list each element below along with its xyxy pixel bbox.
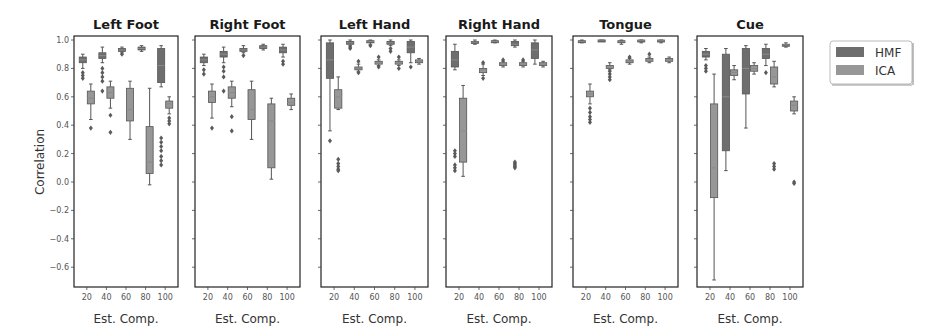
x-tick-label: 80 xyxy=(390,293,400,302)
y-tick-label: 0.0 xyxy=(56,178,69,187)
y-axis-label: Correlation xyxy=(33,129,47,195)
x-tick-label: 20 xyxy=(329,293,339,302)
panel-title: Left Foot xyxy=(93,17,159,32)
x-tick-label: 40 xyxy=(101,293,111,302)
x-tick-label: 100 xyxy=(657,293,672,302)
x-tick-label: 60 xyxy=(369,293,379,302)
x-tick-label: 40 xyxy=(601,293,611,302)
iqr-box xyxy=(335,90,342,108)
iqr-box xyxy=(87,91,94,104)
axes-frame xyxy=(573,36,678,287)
x-tick-label: 60 xyxy=(745,293,755,302)
iqr-box xyxy=(326,43,333,78)
x-tick-label: 80 xyxy=(640,293,650,302)
panel-tongue: Tongue20406080100Est. Comp. xyxy=(570,17,678,326)
iqr-box xyxy=(722,54,729,151)
x-axis-label: Est. Comp. xyxy=(717,312,782,326)
y-tick-label: 0.2 xyxy=(56,150,69,159)
boxplot-figure: Correlation Left Foot1.00.80.60.40.20.0−… xyxy=(0,0,943,335)
x-tick-label: 80 xyxy=(765,293,775,302)
panel-right-hand: Right Hand20406080100Est. Comp. xyxy=(443,17,552,326)
panel-title: Cue xyxy=(736,17,764,32)
legend-swatch xyxy=(836,65,864,75)
iqr-box xyxy=(742,49,749,94)
x-axis-label: Est. Comp. xyxy=(593,312,658,326)
iqr-box xyxy=(791,101,798,111)
box-hmf-20 xyxy=(578,40,585,43)
x-axis-label: Est. Comp. xyxy=(93,312,158,326)
x-axis-label: Est. Comp. xyxy=(342,312,407,326)
y-tick-label: 0.6 xyxy=(56,93,69,102)
iqr-box xyxy=(460,98,467,162)
y-tick-label: −0.2 xyxy=(50,206,69,215)
x-tick-label: 40 xyxy=(474,293,484,302)
panel-title: Left Hand xyxy=(339,17,411,32)
panel-title: Tongue xyxy=(599,17,652,32)
x-tick-label: 100 xyxy=(531,293,546,302)
x-tick-label: 20 xyxy=(581,293,591,302)
y-tick-label: 0.4 xyxy=(56,121,69,130)
box-hmf-60 xyxy=(491,40,498,43)
x-tick-label: 100 xyxy=(407,293,422,302)
axes-frame xyxy=(195,36,300,287)
x-tick-label: 80 xyxy=(514,293,524,302)
x-tick-label: 100 xyxy=(782,293,797,302)
y-tick-label: 1.0 xyxy=(56,36,69,45)
y-tick-label: −0.6 xyxy=(50,263,69,272)
iqr-box xyxy=(268,104,275,168)
x-axis-label: Est. Comp. xyxy=(215,312,280,326)
iqr-box xyxy=(146,127,153,174)
iqr-box xyxy=(771,67,778,84)
x-tick-label: 60 xyxy=(121,293,131,302)
panel-title: Right Hand xyxy=(458,17,540,32)
x-tick-label: 60 xyxy=(620,293,630,302)
x-tick-label: 20 xyxy=(82,293,92,302)
iqr-box xyxy=(288,98,295,105)
x-tick-label: 80 xyxy=(262,293,272,302)
y-tick-label: −0.4 xyxy=(50,235,69,244)
x-tick-label: 80 xyxy=(141,293,151,302)
legend-label: ICA xyxy=(875,64,896,78)
legend-swatch xyxy=(836,47,864,57)
panel-left-hand: Left Hand20406080100Est. Comp. xyxy=(318,17,428,326)
iqr-box xyxy=(511,41,518,45)
legend-label: HMF xyxy=(875,46,901,60)
iqr-box xyxy=(248,90,255,120)
box-ica-80 xyxy=(268,98,275,179)
panel-right-foot: Right Foot20406080100Est. Comp. xyxy=(192,17,300,326)
iqr-box xyxy=(480,68,487,72)
y-tick-label: 0.8 xyxy=(56,64,69,73)
box-hmf-40 xyxy=(598,40,605,42)
iqr-box xyxy=(762,49,769,59)
x-tick-label: 20 xyxy=(705,293,715,302)
iqr-box xyxy=(711,104,718,198)
panel-title: Right Foot xyxy=(209,17,285,32)
iqr-box xyxy=(127,88,134,121)
x-tick-label: 60 xyxy=(494,293,504,302)
x-tick-label: 100 xyxy=(158,293,173,302)
x-axis-label: Est. Comp. xyxy=(466,312,531,326)
iqr-box xyxy=(531,43,538,59)
x-tick-label: 40 xyxy=(725,293,735,302)
panel-left-foot: Left Foot1.00.80.60.40.20.0−0.2−0.4−0.62… xyxy=(50,17,178,326)
iqr-box xyxy=(166,101,173,108)
x-tick-label: 100 xyxy=(279,293,294,302)
x-tick-label: 40 xyxy=(223,293,233,302)
x-tick-label: 60 xyxy=(242,293,252,302)
x-tick-label: 20 xyxy=(203,293,213,302)
panels-group: Left Foot1.00.80.60.40.20.0−0.2−0.4−0.62… xyxy=(50,17,803,326)
axes-frame xyxy=(321,36,428,287)
iqr-box xyxy=(451,51,458,67)
x-tick-label: 40 xyxy=(349,293,359,302)
legend: HMFICA xyxy=(830,41,913,85)
x-tick-label: 20 xyxy=(454,293,464,302)
panel-cue: Cue20406080100Est. Comp. xyxy=(694,17,803,326)
